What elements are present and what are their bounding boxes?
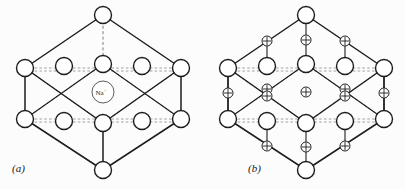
large-ion <box>56 58 73 75</box>
large-ion <box>298 115 315 132</box>
large-ion <box>134 113 151 130</box>
large-ion <box>298 56 315 73</box>
nacl-lattice-figure: Na+ (a) <box>0 0 405 189</box>
plus-ion <box>262 141 272 151</box>
large-ion <box>337 113 354 130</box>
large-ion <box>259 58 276 75</box>
large-ion <box>134 58 151 75</box>
panel-a-center-ion: Na+ <box>92 81 114 103</box>
large-ion <box>298 7 315 24</box>
plus-ion <box>340 141 350 151</box>
large-ion <box>376 111 393 128</box>
large-ion <box>95 56 112 73</box>
large-ion <box>376 60 393 77</box>
large-ion <box>95 7 112 24</box>
plus-ion <box>301 35 311 45</box>
plus-ion <box>301 142 311 152</box>
large-ion <box>298 162 315 179</box>
large-ion <box>337 58 354 75</box>
large-ion <box>95 115 112 132</box>
large-ion <box>259 113 276 130</box>
panel-a: Na+ (a) <box>12 7 190 179</box>
plus-ion <box>379 88 389 98</box>
large-ion <box>17 111 34 128</box>
plus-ion <box>262 36 272 46</box>
panel-b-label: (b) <box>248 162 261 175</box>
large-ion <box>95 162 112 179</box>
large-ion <box>56 113 73 130</box>
plus-ion <box>340 91 350 101</box>
large-ion <box>173 111 190 128</box>
large-ion <box>220 60 237 77</box>
plus-ion <box>301 87 311 97</box>
large-ion <box>173 60 190 77</box>
plus-ion <box>340 36 350 46</box>
large-ion <box>17 60 34 77</box>
panel-a-label: (a) <box>12 162 25 175</box>
large-ion <box>220 111 237 128</box>
panel-b: (b) <box>220 7 393 179</box>
plus-ion <box>223 88 233 98</box>
na-ion-charge: + <box>104 88 107 93</box>
plus-ion <box>262 91 272 101</box>
